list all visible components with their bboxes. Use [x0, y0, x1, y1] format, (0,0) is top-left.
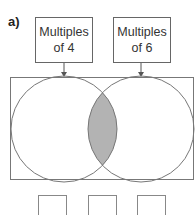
answer-box-2[interactable] [88, 195, 117, 215]
venn-diagram [0, 0, 195, 215]
answer-box-1[interactable] [38, 195, 67, 215]
intersection-region [88, 76, 194, 182]
answer-box-3[interactable] [137, 195, 166, 215]
arrow-set-a [61, 63, 67, 77]
arrow-set-b [138, 63, 144, 77]
